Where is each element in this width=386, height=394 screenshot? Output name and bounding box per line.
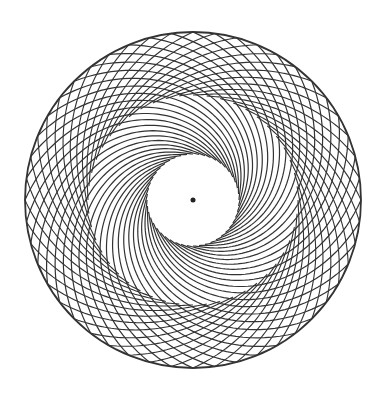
arc-line — [91, 62, 253, 217]
arc-line — [26, 120, 229, 222]
center-dot — [191, 198, 196, 203]
arc-line — [119, 54, 277, 126]
arc-line — [133, 182, 295, 337]
spiral-arc-pattern — [0, 0, 386, 394]
arc-line — [113, 164, 215, 367]
arc-line — [175, 98, 330, 260]
arc-line — [55, 140, 210, 302]
arc-line — [157, 178, 360, 280]
arc-line — [109, 274, 267, 346]
arc-line — [171, 33, 273, 236]
arc-line — [267, 126, 339, 284]
arc-line — [47, 116, 119, 274]
